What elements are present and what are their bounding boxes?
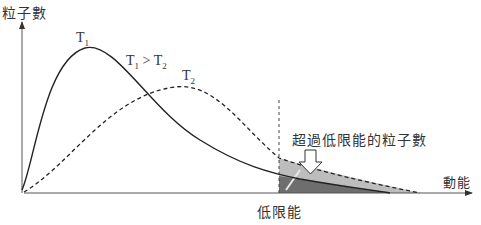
maxwell-boltzmann-diagram [0,0,481,225]
y-axis-label: 粒子數 [2,2,47,22]
x-axis-label: 動能 [443,172,471,191]
curve-t1 [22,47,390,193]
exceed-label: 超過低限能的粒子數 [292,129,427,149]
t1-label: T1 [76,30,89,48]
relation-label: T1 > T2 [126,53,167,71]
threshold-label: 低限能 [257,201,302,221]
t2-label: T2 [182,68,195,86]
